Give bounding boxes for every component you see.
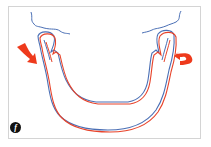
panel-label: f [10,122,21,133]
mandible-outline-red [40,32,176,132]
skull-base-lines [31,11,181,34]
mandible-diagram [0,0,211,147]
mandible-outline-blue [38,30,174,130]
right-arrow-icon [174,51,192,65]
left-arrow-icon [17,43,37,64]
